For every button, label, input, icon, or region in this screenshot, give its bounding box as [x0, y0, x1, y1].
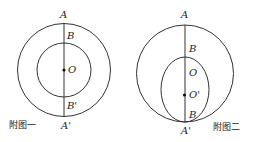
- label-O: O: [68, 65, 76, 75]
- center-dot-O: [62, 68, 65, 71]
- label-O-prime: O': [189, 90, 200, 100]
- label-B-bottom: B: [189, 110, 196, 120]
- figure-2: [137, 25, 234, 122]
- caption-figure-1: 附图一: [9, 120, 36, 130]
- label-A-prime: A': [181, 126, 191, 136]
- diagram-canvas: [0, 0, 257, 142]
- label-A-prime: A': [61, 121, 71, 131]
- caption-figure-2: 附图二: [213, 122, 240, 132]
- label-A: A: [60, 10, 67, 20]
- figure-1: [18, 24, 111, 117]
- label-B-top: B: [189, 44, 196, 54]
- label-B-prime: B': [67, 101, 77, 111]
- label-O: O: [189, 68, 197, 78]
- label-A: A: [181, 10, 188, 20]
- center-dot-O-prime: [183, 93, 186, 96]
- label-B: B: [67, 31, 74, 41]
